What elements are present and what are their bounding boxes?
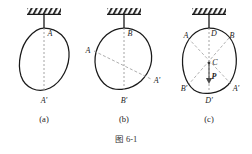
figure-caption: 图 6-1 bbox=[115, 132, 137, 144]
figure-6-1: A A' (a) B B' A A' (b) D A B B' A' D' C … bbox=[0, 0, 252, 154]
force-label-P: P bbox=[212, 72, 217, 81]
point-label-c-D: D bbox=[211, 29, 217, 38]
panel-a bbox=[19, 8, 69, 90]
diagonal-axis-b bbox=[94, 51, 151, 79]
point-label-c-Dprime: D' bbox=[205, 96, 213, 105]
point-label-a-A: A bbox=[48, 29, 53, 38]
hatch-fill-b bbox=[107, 8, 141, 14]
ceiling-support-b bbox=[107, 8, 141, 28]
body-outline-b bbox=[95, 28, 152, 89]
point-label-c-B: B bbox=[230, 31, 235, 40]
point-label-b-B: B bbox=[128, 29, 133, 38]
point-label-b-Aprime: A' bbox=[154, 76, 161, 85]
point-label-c-C: C bbox=[212, 58, 217, 67]
point-label-a-Aprime: A' bbox=[41, 96, 48, 105]
hatch-fill-a bbox=[27, 8, 61, 14]
point-label-c-A: A bbox=[184, 31, 189, 40]
point-label-c-Aprime: A' bbox=[233, 84, 240, 93]
panel-caption-a: (a) bbox=[39, 114, 48, 124]
center-of-gravity-dot bbox=[208, 62, 211, 65]
panel-c bbox=[182, 8, 236, 93]
point-label-b-Bprime: B' bbox=[121, 96, 128, 105]
panel-caption-b: (b) bbox=[119, 114, 129, 124]
hatch-fill-c bbox=[192, 8, 226, 14]
ceiling-support-c bbox=[192, 8, 226, 28]
point-label-b-A: A bbox=[86, 46, 91, 55]
ceiling-support-a bbox=[27, 8, 61, 28]
point-label-c-Bprime: B' bbox=[181, 84, 188, 93]
panel-caption-c: (c) bbox=[204, 114, 213, 124]
panel-b bbox=[94, 8, 152, 91]
